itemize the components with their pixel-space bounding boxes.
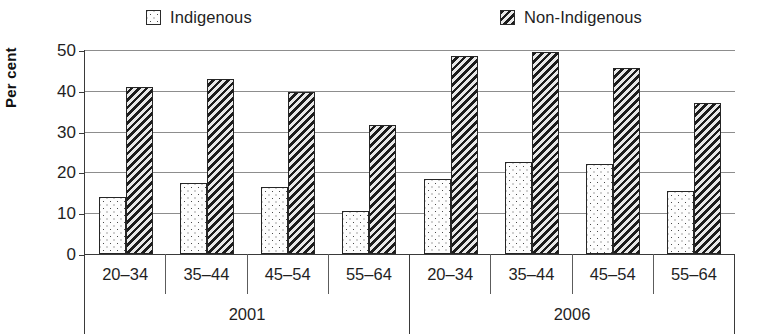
period-group-2001 <box>85 50 410 254</box>
legend-swatch-dots-icon <box>146 10 161 25</box>
x-tick-label-2006-55–64: 55–64 <box>654 254 734 294</box>
x-tick-label-2006-45–54: 45–54 <box>573 254 654 294</box>
x-tick-label-2001-35–44: 35–44 <box>166 254 247 294</box>
bar-group-2001-20–34 <box>85 50 166 254</box>
y-axis-title: Per cent <box>2 47 19 108</box>
bar-2001-35–44-non-indigenous <box>207 79 234 254</box>
x-period-label-2006: 2006 <box>410 294 734 334</box>
legend-entry-indigenous: Indigenous <box>146 8 252 27</box>
y-tick-label-50: 50 <box>57 41 76 61</box>
x-category-group-2001: 20–3435–4445–5455–64 <box>85 254 410 294</box>
bars-layer <box>85 50 735 254</box>
bar-2006-35–44-non-indigenous <box>532 52 559 254</box>
legend-entry-non-indigenous: Non-Indigenous <box>500 8 642 27</box>
bar-2006-35–44-indigenous <box>505 162 532 254</box>
x-period-group-2001: 2001 <box>85 294 410 334</box>
bar-group-2006-55–64 <box>654 50 735 254</box>
legend-label-non-indigenous: Non-Indigenous <box>524 8 642 27</box>
y-tick-label-10: 10 <box>57 204 76 224</box>
bar-2001-35–44-indigenous <box>180 183 207 254</box>
bar-2001-55–64-non-indigenous <box>369 125 396 254</box>
period-group-2006 <box>410 50 735 254</box>
bar-2001-55–64-indigenous <box>342 211 369 254</box>
bar-group-2006-35–44 <box>491 50 572 254</box>
legend-swatch-hatch-icon <box>500 10 515 25</box>
bar-2006-55–64-non-indigenous <box>694 103 721 254</box>
bar-group-2001-45–54 <box>248 50 329 254</box>
bar-group-2001-35–44 <box>166 50 247 254</box>
bar-2006-45–54-indigenous <box>586 164 613 254</box>
bar-2001-20–34-indigenous <box>99 197 126 254</box>
bar-2001-20–34-non-indigenous <box>126 87 153 254</box>
bar-chart-figure: Indigenous Non-Indigenous Per cent 50 40… <box>0 0 769 336</box>
x-axis-period-row: 20012006 <box>85 294 734 334</box>
bar-2006-55–64-indigenous <box>667 191 694 254</box>
x-tick-label-2001-45–54: 45–54 <box>248 254 329 294</box>
plot-area: 50 40 30 20 10 0 <box>84 50 735 254</box>
y-tick-label-40: 40 <box>57 82 76 102</box>
y-tick-label-30: 30 <box>57 123 76 143</box>
x-axis-table: 20–3435–4445–5455–6420–3435–4445–5455–64… <box>84 254 735 334</box>
plot-wrapper: 50 40 30 20 10 0 <box>84 50 735 254</box>
x-tick-label-2001-20–34: 20–34 <box>85 254 166 294</box>
x-period-group-2006: 2006 <box>410 294 734 334</box>
bar-2006-20–34-indigenous <box>424 179 451 254</box>
x-period-label-2001: 2001 <box>85 294 409 334</box>
legend-label-indigenous: Indigenous <box>170 8 252 27</box>
bar-group-2001-55–64 <box>329 50 410 254</box>
x-category-group-2006: 20–3435–4445–5455–64 <box>410 254 734 294</box>
x-tick-label-2001-55–64: 55–64 <box>329 254 409 294</box>
y-tick-label-0: 0 <box>67 245 76 265</box>
y-tick-label-20: 20 <box>57 163 76 183</box>
bar-2006-20–34-non-indigenous <box>451 56 478 254</box>
bar-2001-45–54-indigenous <box>261 187 288 254</box>
x-tick-label-2006-35–44: 35–44 <box>491 254 572 294</box>
bar-2001-45–54-non-indigenous <box>288 92 315 254</box>
x-axis-category-row: 20–3435–4445–5455–6420–3435–4445–5455–64 <box>85 254 734 294</box>
bar-2006-45–54-non-indigenous <box>613 68 640 254</box>
chart-legend: Indigenous Non-Indigenous <box>0 6 769 34</box>
bar-group-2006-45–54 <box>573 50 654 254</box>
bar-group-2006-20–34 <box>410 50 491 254</box>
x-tick-label-2006-20–34: 20–34 <box>410 254 491 294</box>
